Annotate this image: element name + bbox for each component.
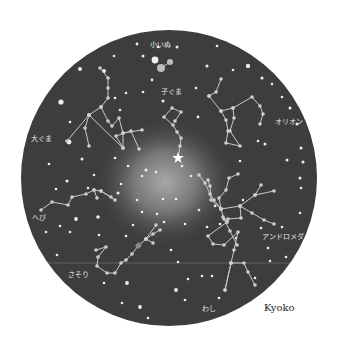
- author-credit: Kyoko: [264, 302, 295, 313]
- star-dot: [48, 163, 51, 166]
- star-dot: [197, 116, 200, 119]
- star-dot: [142, 91, 145, 94]
- star-dot: [138, 305, 142, 309]
- star-dot: [113, 55, 116, 58]
- star-dot: [127, 165, 130, 168]
- star-dot: [59, 225, 62, 228]
- star-dot: [211, 275, 214, 278]
- star-dot: [141, 211, 144, 214]
- star-dot: [299, 212, 302, 215]
- star-dot: [219, 223, 222, 226]
- label-koguma: 子ぐま: [161, 89, 182, 96]
- star-dot: [136, 43, 139, 46]
- star-dot: [117, 192, 120, 195]
- star-dot: [119, 109, 122, 112]
- star-dot: [264, 143, 267, 146]
- star-dot: [152, 57, 159, 64]
- star-dot: [187, 278, 190, 281]
- star-dot: [281, 96, 284, 99]
- star-dot: [216, 45, 219, 48]
- label-andromeda: アンドロメダ: [262, 234, 304, 241]
- star-dot: [218, 297, 221, 300]
- star-dot: [184, 299, 187, 302]
- star-dot: [132, 224, 135, 227]
- star-dot: [142, 55, 145, 58]
- star-dot: [260, 76, 263, 79]
- star-dot: [195, 87, 198, 90]
- star-dot: [125, 281, 129, 285]
- star-dot: [267, 247, 270, 250]
- star-dot: [96, 215, 100, 219]
- star-dot: [151, 79, 154, 82]
- star-dot: [114, 157, 117, 160]
- star-dot: [300, 147, 303, 150]
- star-dot: [65, 179, 68, 182]
- star-dot: [269, 260, 272, 263]
- star-dot: [271, 83, 274, 86]
- star-dot: [181, 165, 184, 168]
- label-hebi: へび: [32, 215, 46, 222]
- star-dot: [120, 183, 123, 186]
- star-dot: [299, 177, 302, 180]
- star-dot: [198, 209, 201, 212]
- star-chart: [0, 0, 342, 349]
- label-washi: わし: [202, 306, 216, 313]
- star-dot: [69, 231, 72, 234]
- star-dot: [125, 235, 128, 238]
- star-dot: [302, 161, 305, 164]
- star-dot: [300, 187, 303, 190]
- star-dot: [147, 317, 150, 320]
- label-koinu: 小いぬ: [150, 42, 171, 49]
- star-dot: [170, 249, 173, 252]
- star-dot: [136, 199, 139, 202]
- star-dot: [55, 188, 58, 191]
- star-dot: [141, 175, 144, 178]
- star-dot: [163, 221, 166, 224]
- star-dot: [206, 65, 209, 68]
- star-dot: [289, 107, 292, 110]
- star-dot: [162, 198, 165, 201]
- star-dot: [177, 261, 180, 264]
- star-dot: [176, 46, 179, 49]
- star-dot: [114, 97, 117, 100]
- star-dot: [239, 160, 242, 163]
- star-dot: [232, 69, 235, 72]
- star-dot: [69, 121, 72, 124]
- star-dot: [155, 171, 158, 174]
- star-dot: [281, 226, 284, 229]
- star-dot: [78, 67, 82, 71]
- star-dot: [58, 99, 63, 104]
- star-dot: [156, 213, 159, 216]
- label-orion: オリオン: [275, 119, 303, 126]
- star-dot: [162, 100, 165, 103]
- star-dot: [56, 254, 59, 257]
- star-dot: [174, 288, 178, 292]
- star-dot: [201, 275, 204, 278]
- star-dot: [87, 187, 90, 190]
- star-dot: [206, 226, 209, 229]
- star-dot: [184, 223, 187, 226]
- star-dot: [286, 159, 289, 162]
- star-dot: [45, 231, 48, 234]
- star-dot: [145, 169, 148, 172]
- star-dot: [121, 302, 124, 305]
- star-dot: [103, 282, 106, 285]
- star-dot: [125, 92, 128, 95]
- star-dot: [242, 199, 245, 202]
- star-dot: [257, 140, 260, 143]
- star-dot: [190, 175, 193, 178]
- star-dot: [285, 256, 288, 259]
- star-dot: [93, 174, 96, 177]
- star-dot: [81, 158, 84, 161]
- star-dot: [254, 277, 257, 280]
- star-dot: [74, 217, 78, 221]
- star-dot: [175, 198, 178, 201]
- star-dot: [98, 234, 101, 237]
- label-ookuma: 大ぐま: [31, 136, 52, 143]
- label-sasori: さそり: [68, 272, 89, 279]
- star-dot: [260, 227, 263, 230]
- star-dot: [246, 64, 250, 68]
